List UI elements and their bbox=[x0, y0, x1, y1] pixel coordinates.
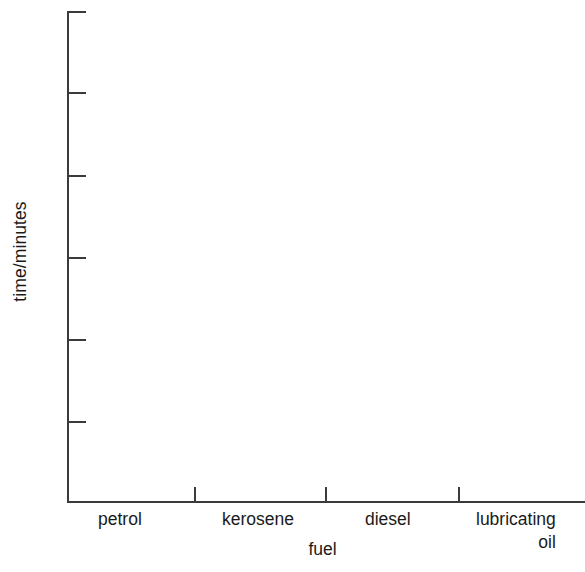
x-axis-label-diesel: diesel bbox=[365, 508, 411, 531]
y-axis-tick-6 bbox=[67, 421, 86, 423]
chart-canvas: time/minutes petrol kerosene diesel lubr… bbox=[0, 0, 585, 572]
y-axis-title: time/minutes bbox=[0, 0, 40, 502]
x-axis-label-lubricating-oil-text: lubricating bbox=[476, 509, 556, 529]
x-axis-label-diesel-text: diesel bbox=[365, 509, 411, 529]
x-axis-tick-2 bbox=[325, 487, 327, 502]
x-axis-tick-3 bbox=[458, 487, 460, 502]
y-axis-title-text: time/minutes bbox=[10, 201, 31, 301]
x-axis-label-kerosene: kerosene bbox=[222, 508, 294, 531]
x-axis-label-petrol-text: petrol bbox=[98, 509, 142, 529]
y-axis-tick-1 bbox=[67, 11, 86, 13]
y-axis-tick-4 bbox=[67, 257, 86, 259]
y-axis-tick-2 bbox=[67, 92, 86, 94]
x-axis-title-text: fuel bbox=[308, 539, 336, 559]
x-axis-title: fuel bbox=[0, 539, 585, 560]
x-axis-tick-1 bbox=[194, 487, 196, 502]
y-axis-tick-3 bbox=[67, 175, 86, 177]
y-axis-tick-5 bbox=[67, 339, 86, 341]
x-axis-label-kerosene-text: kerosene bbox=[222, 509, 294, 529]
x-axis-label-petrol: petrol bbox=[98, 508, 142, 531]
